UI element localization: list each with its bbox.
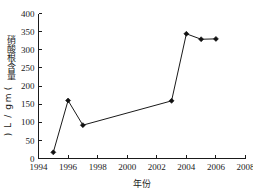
y-axis-title-char: / <box>3 114 13 118</box>
x-axis-tick-labels: 19941996199820002002200420062008 <box>30 162 254 172</box>
axis-lines <box>39 14 246 159</box>
y-axis-title-char: L <box>3 123 13 128</box>
y-axis-title-char: m <box>3 93 13 102</box>
x-tick-label: 2000 <box>118 162 137 172</box>
data-point <box>51 150 56 155</box>
data-point <box>199 37 204 42</box>
y-axis-title-char: 量 <box>7 71 16 81</box>
y-tick-label: 250 <box>21 63 35 73</box>
data-point <box>184 31 189 36</box>
x-tick-label: 2004 <box>177 162 196 172</box>
x-axis-title: 年份 <box>133 178 151 189</box>
data-point <box>80 123 85 128</box>
y-tick-label: 150 <box>21 99 35 109</box>
x-tick-label: 1998 <box>89 162 108 172</box>
y-axis-title-char: ) <box>3 133 13 137</box>
y-axis-title-char: ( <box>3 87 13 91</box>
y-axis-tick-labels: 050100150200250300350400 <box>21 9 35 164</box>
x-tick-label: 1994 <box>30 162 49 172</box>
x-tick-label: 1996 <box>59 162 78 172</box>
y-tick-label: 50 <box>26 136 36 146</box>
y-tick-label: 300 <box>21 45 35 55</box>
chart-container: 050100150200250300350400 199419961998200… <box>0 0 253 191</box>
series-line-nitrate <box>53 34 216 153</box>
data-point <box>66 98 71 103</box>
y-axis-title-char: g <box>3 104 13 110</box>
y-tick-label: 100 <box>21 117 35 127</box>
series-markers-nitrate <box>51 31 219 155</box>
axis-tick-marks <box>39 14 246 159</box>
x-tick-label: 2006 <box>207 162 226 172</box>
y-tick-label: 350 <box>21 27 35 37</box>
data-point <box>169 98 174 103</box>
y-axis-title: 硝酸根含量(mg/L) <box>3 34 16 137</box>
data-point <box>213 36 218 41</box>
x-tick-label: 2002 <box>148 162 166 172</box>
x-tick-label: 2008 <box>237 162 254 172</box>
y-tick-label: 200 <box>21 81 35 91</box>
y-tick-label: 400 <box>21 9 35 19</box>
line-chart: 050100150200250300350400 199419961998200… <box>0 0 253 191</box>
